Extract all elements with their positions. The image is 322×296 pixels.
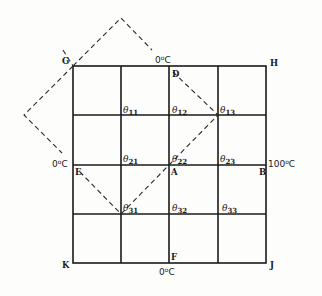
boundary-temp-top: 0oC <box>155 54 171 65</box>
heat-grid-diagram: G H K J D E A B F θ11 θ12 θ13 θ21 θ22 θ2… <box>0 0 322 296</box>
boundary-temp-bottom: 0oC <box>159 266 175 277</box>
label-A: A <box>170 167 178 177</box>
dashed-diamond-top <box>73 18 152 66</box>
label-J: J <box>269 260 274 270</box>
label-F: F <box>171 252 177 262</box>
label-D: D <box>172 69 180 79</box>
label-H: H <box>270 58 278 68</box>
label-E: E <box>75 167 82 177</box>
dashed-diamond-inner <box>80 72 218 214</box>
label-G: G <box>62 56 69 66</box>
label-K: K <box>62 260 70 270</box>
boundary-temp-right: 100oC <box>268 158 295 169</box>
boundary-temp-left: 0oC <box>52 158 68 169</box>
label-B: B <box>259 167 266 177</box>
diagram-canvas: G H K J D E A B F θ11 θ12 θ13 θ21 θ22 θ2… <box>0 0 322 296</box>
dashed-diamond-left <box>24 66 73 153</box>
